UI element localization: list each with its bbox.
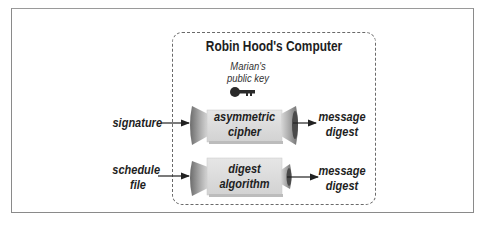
input-label-schedule-file: schedule file xyxy=(100,163,160,193)
key-label: Marian's public key xyxy=(219,60,277,84)
key-icon xyxy=(230,87,255,97)
output-label-message-digest-2: message digest xyxy=(316,164,369,194)
container-title: Robin Hood's Computer xyxy=(187,38,360,54)
input-label-signature: signature xyxy=(104,116,162,131)
output-label-message-digest-1: message digest xyxy=(316,110,369,140)
process-label-digest-algorithm: digest algorithm xyxy=(210,162,280,192)
process-label-asymmetric-cipher: asymmetric cipher xyxy=(210,110,280,140)
